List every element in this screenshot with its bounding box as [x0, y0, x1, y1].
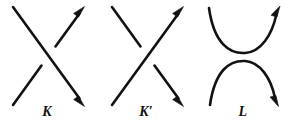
diagram-K [13, 7, 85, 107]
L-lower-arc [210, 61, 275, 105]
Kprime-over-strand [112, 14, 179, 106]
K-over-strand-arrowhead [74, 96, 85, 107]
L-lower-arc-arrowhead [270, 96, 279, 107]
Kprime-under-strand-lower-segment [155, 66, 179, 99]
diagram-label-K-prime: K′ [139, 104, 153, 120]
K-under-strand-lower-segment [13, 66, 42, 106]
Kprime-under-strand-arrowhead [173, 96, 184, 107]
Kprime-over-strand-arrowhead [173, 7, 184, 18]
L-upper-arc-arrowhead [271, 6, 280, 17]
K-under-strand-upper-segment [56, 14, 80, 47]
Kprime-under-strand-upper-segment [112, 7, 141, 47]
diagram-Kprime [112, 7, 184, 107]
diagram-label-L: L [239, 104, 248, 120]
K-under-strand-arrowhead [74, 7, 85, 18]
knot-skein-figure: K K′ L [0, 0, 291, 125]
L-upper-arc [209, 8, 277, 53]
K-over-strand [13, 7, 80, 99]
diagram-L [209, 6, 280, 107]
diagram-label-K: K [42, 104, 52, 120]
